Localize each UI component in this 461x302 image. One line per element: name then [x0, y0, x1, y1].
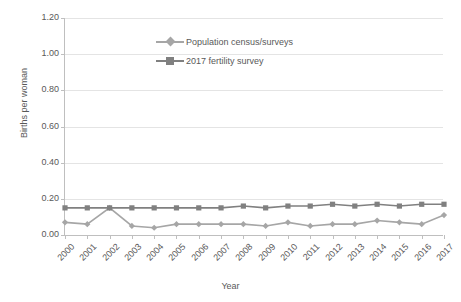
series-marker-diamond — [151, 225, 157, 231]
y-axis-tick-label: 0.40 — [3, 158, 59, 167]
series-marker-square — [152, 205, 157, 210]
y-axis-tick-label: 0.60 — [3, 122, 59, 131]
series-marker-square — [62, 205, 67, 210]
series-marker-square — [285, 203, 290, 208]
series-marker-square — [375, 202, 380, 207]
series-line — [65, 208, 444, 228]
x-axis-tick-mark — [444, 235, 445, 239]
x-axis-title: Year — [0, 281, 461, 291]
series-marker-diamond — [173, 221, 179, 227]
series-marker-square — [419, 202, 424, 207]
x-axis-tick-mark — [288, 235, 289, 239]
series-marker-diamond — [218, 221, 224, 227]
x-axis-tick-mark — [333, 235, 334, 239]
x-axis-tick-mark — [310, 235, 311, 239]
series-marker-diamond — [374, 217, 380, 223]
series-marker-square — [174, 205, 179, 210]
series-marker-square — [263, 205, 268, 210]
y-axis-title: Births per woman — [19, 43, 29, 163]
series-marker-square — [107, 205, 112, 210]
series-marker-square — [129, 205, 134, 210]
series-marker-square — [397, 203, 402, 208]
series-marker-diamond — [240, 221, 246, 227]
legend-label: Population census/surveys — [186, 37, 293, 47]
legend-key-square-icon — [156, 56, 184, 66]
series-marker-square — [85, 205, 90, 210]
series-marker-square — [218, 205, 223, 210]
series-marker-diamond — [396, 219, 402, 225]
series-marker-square — [352, 203, 357, 208]
x-axis-tick-mark — [377, 235, 378, 239]
series-marker-diamond — [196, 221, 202, 227]
series-marker-square — [308, 203, 313, 208]
series-marker-square — [196, 205, 201, 210]
x-axis-tick-mark — [221, 235, 222, 239]
x-axis-tick-mark — [65, 235, 66, 239]
series-marker-diamond — [263, 223, 269, 229]
x-axis-tick-mark — [422, 235, 423, 239]
x-axis-tick-mark — [176, 235, 177, 239]
series-marker-diamond — [285, 219, 291, 225]
x-axis-tick-mark — [266, 235, 267, 239]
chart-legend: Population census/surveys 2017 fertility… — [156, 32, 293, 70]
series-marker-diamond — [419, 221, 425, 227]
series-marker-diamond — [62, 219, 68, 225]
legend-item: Population census/surveys — [156, 32, 293, 51]
x-axis-tick-mark — [355, 235, 356, 239]
x-axis-tick-mark — [132, 235, 133, 239]
series-marker-square — [330, 202, 335, 207]
y-axis-tick-label: 0.20 — [3, 194, 59, 203]
series-marker-diamond — [329, 221, 335, 227]
series-marker-diamond — [441, 212, 447, 218]
chart-container: Births per woman 1.201.000.800.600.400.2… — [0, 0, 461, 302]
y-axis-tick-label: 1.00 — [3, 49, 59, 58]
series-line — [65, 204, 444, 208]
gridline — [65, 235, 443, 236]
series-marker-square — [441, 202, 446, 207]
legend-item: 2017 fertility survey — [156, 51, 293, 70]
x-axis-tick-mark — [110, 235, 111, 239]
y-axis-tick-label: 0.80 — [3, 85, 59, 94]
x-axis-tick-mark — [87, 235, 88, 239]
y-axis-tick-label: 0.00 — [3, 230, 59, 239]
legend-key-diamond-icon — [156, 37, 184, 47]
y-axis-tick-label: 1.20 — [3, 13, 59, 22]
series-marker-diamond — [352, 221, 358, 227]
x-axis-tick-mark — [243, 235, 244, 239]
series-marker-square — [241, 203, 246, 208]
x-axis-tick-mark — [199, 235, 200, 239]
legend-label: 2017 fertility survey — [186, 56, 264, 66]
series-marker-diamond — [307, 223, 313, 229]
x-axis-tick-mark — [399, 235, 400, 239]
x-axis-tick-mark — [154, 235, 155, 239]
